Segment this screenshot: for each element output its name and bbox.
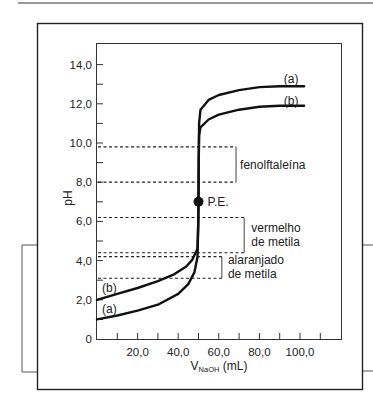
x-tick-label: 100,0 [286,346,315,358]
indicator-label: vermelho [251,221,301,235]
indicator-label: alaranjado [228,253,284,267]
equivalence-point: P.E. [194,195,229,209]
indicator-label: fenolftaleína [240,158,306,172]
equivalence-point-dot [194,197,204,207]
background-box-left [22,245,37,372]
plot-area [97,44,342,340]
titration-chart: 20,040,060,080,0100,002,04,06,08,010,012… [0,0,373,409]
y-axis-title: pH [61,190,75,205]
x-tick-label: 20,0 [126,346,148,358]
x-tick-label: 60,0 [208,346,230,358]
curve-label-end: (a) [284,72,299,86]
curve-label-end: (b) [284,94,299,108]
y-tick-label: 2,0 [76,294,92,306]
y-tick-label: 0 [86,333,92,345]
y-tick-label: 4,0 [76,255,92,267]
x-tick-label: 40,0 [167,346,189,358]
equivalence-point-label: P.E. [208,195,229,209]
curve-label-start: (b) [102,281,117,295]
indicator-label: de metila [251,235,300,249]
y-tick-label: 14,0 [70,59,92,71]
y-tick-label: 8,0 [76,176,92,188]
curve-label-start: (a) [102,302,117,316]
indicator-label: de metila [228,267,277,281]
x-tick-label: 80,0 [248,346,270,358]
y-tick-label: 10,0 [70,137,92,149]
y-tick-label: 12,0 [70,98,92,110]
y-tick-label: 6,0 [76,215,92,227]
